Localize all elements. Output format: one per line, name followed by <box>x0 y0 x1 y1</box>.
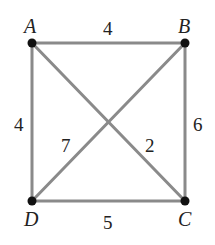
weight-d-b: 7 <box>61 135 71 156</box>
vertex-label-c: C <box>178 208 192 230</box>
vertex-b <box>181 39 190 48</box>
vertex-d <box>28 197 37 206</box>
graph-diagram: A B C D 4 4 6 5 7 2 <box>0 0 215 245</box>
weight-b-c: 6 <box>193 114 203 135</box>
weight-a-d: 4 <box>14 114 24 135</box>
edges <box>32 43 185 201</box>
weight-a-c: 2 <box>145 135 155 156</box>
weight-a-b: 4 <box>103 18 113 39</box>
vertex-label-d: D <box>23 208 39 230</box>
vertex-label-b: B <box>178 15 190 37</box>
vertex-c <box>181 197 190 206</box>
vertex-label-a: A <box>22 15 37 37</box>
weight-d-c: 5 <box>103 212 113 233</box>
vertex-a <box>28 39 37 48</box>
